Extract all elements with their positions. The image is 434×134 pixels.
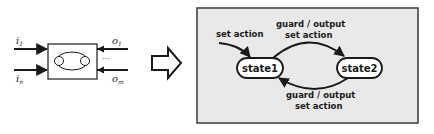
inner-circle-left-icon xyxy=(55,57,64,66)
transition-2-label-line1: guard / output xyxy=(286,90,355,100)
state2-label: state2 xyxy=(341,63,377,74)
actor-block: ··· i1 in o1 om xyxy=(14,35,128,85)
input-label-n: in xyxy=(16,73,23,85)
inner-circle-right-icon xyxy=(81,57,90,66)
transition-1-label-line1: guard / output xyxy=(276,19,345,29)
output-ellipsis: ··· xyxy=(102,55,110,64)
transition-1-label-line2: set action xyxy=(285,30,333,40)
output-label-1: o1 xyxy=(112,35,122,47)
state-node-state2: state2 xyxy=(337,58,382,78)
input-label-1: i1 xyxy=(16,35,23,47)
hollow-right-arrow-icon xyxy=(152,48,181,78)
transition-2-label-line2: set action xyxy=(295,101,343,111)
output-label-m: om xyxy=(112,73,124,85)
initial-transition-label: set action xyxy=(216,29,264,39)
state-machine-panel: set action guard / output set action gua… xyxy=(197,8,418,123)
output-port-m-icon xyxy=(97,67,104,74)
state-node-state1: state1 xyxy=(237,58,283,78)
state1-label: state1 xyxy=(242,63,278,74)
diagram-canvas: ··· i1 in o1 om set action guard / outpu… xyxy=(0,0,434,134)
output-port-1-icon xyxy=(97,46,104,53)
